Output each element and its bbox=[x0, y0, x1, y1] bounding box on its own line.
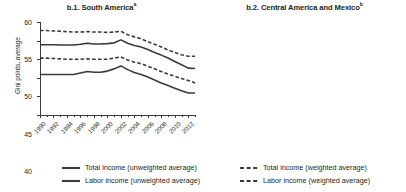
x-axis-tick-label: 1994 bbox=[59, 120, 74, 135]
y-axis-tick-label: 60 bbox=[24, 19, 32, 26]
x-axis-minor-tick bbox=[114, 115, 115, 117]
x-axis-tick-label: 2012 bbox=[181, 120, 196, 135]
x-axis-tick-label: 1998 bbox=[86, 120, 101, 135]
x-axis-tick bbox=[121, 115, 122, 118]
series-line bbox=[40, 57, 195, 83]
y-axis-label-left: Gini points, average bbox=[14, 20, 21, 112]
legend-label: Total income (unweighted average) bbox=[85, 163, 197, 172]
panel-title-right: b.2. Central America and Mexicob bbox=[203, 1, 406, 12]
legend-label: Labor income (weighted average) bbox=[263, 176, 370, 185]
x-axis-tick bbox=[80, 115, 81, 118]
panel-title-right-text: b.2. Central America and Mexico bbox=[246, 3, 360, 12]
legend-item-labor-weighted: Labor income (weighted average) bbox=[240, 176, 370, 185]
x-axis-minor-tick bbox=[60, 115, 61, 117]
x-axis-minor-tick bbox=[141, 115, 142, 117]
legend-item-total-weighted: Total income (weighted average) bbox=[240, 163, 367, 172]
x-axis-minor-tick bbox=[101, 115, 102, 117]
legend-row: Total income (unweighted average) Total … bbox=[62, 161, 406, 174]
x-axis-tick bbox=[94, 115, 95, 118]
x-axis-minor-tick bbox=[155, 115, 156, 117]
x-axis-minor-tick bbox=[87, 115, 88, 117]
x-axis-tick-label: 2006 bbox=[140, 120, 155, 135]
x-axis-tick-label: 2008 bbox=[154, 120, 169, 135]
y-axis-tick-label: 55 bbox=[24, 56, 32, 63]
figure-root: b.1. South Americaa Gini points, average… bbox=[0, 0, 406, 192]
x-axis-minor-tick bbox=[195, 115, 196, 117]
x-axis-minor-tick bbox=[128, 115, 129, 117]
x-axis-line-left bbox=[40, 115, 195, 116]
plot-area-left: 354045505560 199019921994199619982000200… bbox=[40, 22, 195, 115]
x-axis-tick-label: 1990 bbox=[32, 120, 47, 135]
x-axis-tick-label: 1996 bbox=[73, 120, 88, 135]
x-axis-minor-tick bbox=[47, 115, 48, 117]
legend-item-labor-unweighted: Labor income (unweighted average) bbox=[62, 176, 240, 185]
x-axis-tick-label: 1992 bbox=[46, 120, 61, 135]
legend-swatch-dashed-icon bbox=[240, 177, 258, 185]
x-axis-tick bbox=[107, 115, 108, 118]
y-axis-tick-label: 45 bbox=[24, 130, 32, 137]
x-axis-tick-label: 2000 bbox=[100, 120, 115, 135]
x-axis-tick bbox=[67, 115, 68, 118]
x-axis-tick bbox=[40, 115, 41, 118]
series-line bbox=[40, 31, 195, 57]
legend-swatch-dashed-icon bbox=[240, 164, 258, 172]
x-axis-tick-label: 2004 bbox=[127, 120, 142, 135]
x-axis-tick-label: 2002 bbox=[113, 120, 128, 135]
x-axis-minor-tick bbox=[74, 115, 75, 117]
series-line bbox=[40, 40, 195, 69]
legend-row: Labor income (unweighted average) Labor … bbox=[62, 174, 406, 187]
chart-panel-south-america: b.1. South Americaa Gini points, average… bbox=[0, 0, 203, 158]
series-lines-left bbox=[40, 22, 195, 115]
x-axis-tick bbox=[148, 115, 149, 118]
panel-title-left-superscript: a bbox=[133, 1, 136, 7]
series-line bbox=[40, 66, 195, 93]
legend-swatch-solid-icon bbox=[62, 164, 80, 172]
chart-panel-central-america-mexico: b.2. Central America and Mexicob Gini po… bbox=[203, 0, 406, 158]
panel-title-right-superscript: b bbox=[360, 1, 363, 7]
x-axis-minor-tick bbox=[168, 115, 169, 117]
panel-title-left: b.1. South Americaa bbox=[0, 1, 203, 12]
x-axis-tick bbox=[53, 115, 54, 118]
legend: Total income (unweighted average) Total … bbox=[0, 158, 406, 192]
legend-item-total-unweighted: Total income (unweighted average) bbox=[62, 163, 240, 172]
x-axis-tick bbox=[161, 115, 162, 118]
legend-label: Labor income (unweighted average) bbox=[85, 176, 200, 185]
x-axis-minor-tick bbox=[182, 115, 183, 117]
x-axis-tick bbox=[175, 115, 176, 118]
y-axis-tick-label: 50 bbox=[24, 93, 32, 100]
legend-swatch-solid-icon bbox=[62, 177, 80, 185]
x-axis-tick bbox=[134, 115, 135, 118]
x-axis-tick bbox=[188, 115, 189, 118]
legend-label: Total income (weighted average) bbox=[263, 163, 367, 172]
x-axis-tick-label: 2010 bbox=[167, 120, 182, 135]
panel-title-left-text: b.1. South America bbox=[67, 3, 134, 12]
